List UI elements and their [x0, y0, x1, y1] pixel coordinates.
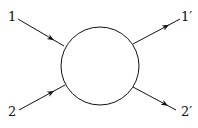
- incoming-line-2: [19, 85, 65, 110]
- label-out1: 1′: [181, 10, 192, 23]
- incoming-line-1: [18, 19, 64, 46]
- label-in2: 2: [8, 105, 16, 118]
- scattering-diagram: 1 2 1′ 2′: [0, 0, 198, 128]
- diagram-graphic: [0, 0, 198, 128]
- label-out2: 2′: [181, 105, 192, 118]
- interaction-blob: [61, 27, 139, 105]
- label-in1: 1: [8, 10, 16, 23]
- outgoing-line-2prime: [133, 87, 176, 110]
- outgoing-line-1prime: [133, 19, 180, 44]
